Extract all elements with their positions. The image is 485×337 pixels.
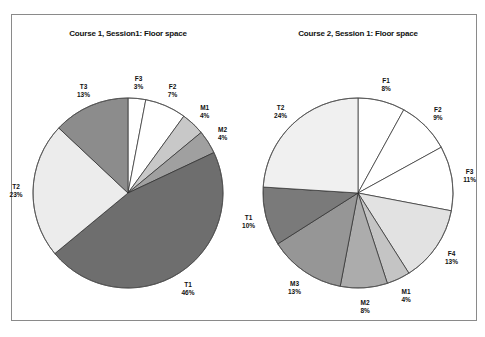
slice-label-name: F1 (382, 77, 390, 84)
slice-label-percent: 7% (168, 91, 178, 98)
pie-chart-2: F18%F29%F311%F413%M14%M28%M313%T110%T224… (242, 77, 476, 314)
slice-label-percent: 10% (242, 222, 255, 229)
slice-label-name: M3 (290, 280, 299, 287)
slice-label-name: M1 (200, 104, 209, 111)
slice-label-name: F2 (169, 83, 177, 90)
slice-label-name: F4 (448, 250, 456, 257)
slice-label-name: T1 (245, 214, 253, 221)
slice-label-percent: 8% (381, 85, 391, 92)
slice-label-percent: 24% (274, 112, 287, 119)
slice-label-percent: 11% (463, 176, 476, 183)
slice-label-percent: 23% (10, 191, 23, 198)
slice-label-percent: 3% (134, 83, 144, 90)
slice-label-percent: 4% (200, 112, 210, 119)
slice-label-name: T2 (277, 104, 285, 111)
slice-label-percent: 4% (401, 296, 411, 303)
slice-label-name: T3 (80, 83, 88, 90)
slice-label-name: T1 (184, 281, 192, 288)
slice-label-percent: 13% (445, 258, 458, 265)
slice-label-percent: 8% (360, 307, 370, 314)
slice-label-name: M2 (361, 299, 370, 306)
slice-label-percent: 9% (433, 114, 443, 121)
slice-label-percent: 46% (181, 289, 194, 296)
slice-label-name: F3 (466, 168, 474, 175)
slice-label-name: M1 (402, 288, 411, 295)
slice-label-percent: 13% (77, 91, 90, 98)
slice-label-name: F3 (135, 75, 143, 82)
slice-label-name: M2 (218, 126, 227, 133)
pie-charts: F33%F27%M14%M24%T146%T223%T313%F18%F29%F… (0, 0, 485, 337)
pie-chart-1: F33%F27%M14%M24%T146%T223%T313% (10, 75, 228, 296)
slice-label-percent: 4% (218, 134, 228, 141)
slice-label-name: F2 (434, 106, 442, 113)
slice-label-name: T2 (12, 183, 20, 190)
slice-label-percent: 13% (288, 288, 301, 295)
